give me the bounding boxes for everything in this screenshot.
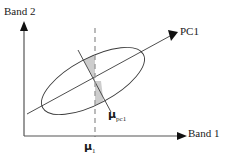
mu-pc1-subscript: pc1 <box>116 115 126 123</box>
pc1-mean-label: μpc1 <box>108 108 126 123</box>
band1-mean-label: μ1 <box>84 140 96 155</box>
shaded-region-upper <box>78 40 95 81</box>
data-distribution-ellipse <box>32 34 154 128</box>
x-axis-label: Band 1 <box>188 128 219 139</box>
mu-symbol: μ <box>84 140 92 153</box>
pc1-label: PC1 <box>180 26 199 37</box>
mu-subscript: 1 <box>92 147 96 155</box>
mu-pc1-symbol: μ <box>108 108 116 121</box>
band1-axis-arrowhead-icon <box>177 132 187 140</box>
band2-axis-arrowhead-icon <box>20 21 28 31</box>
pc1-arrowhead-icon <box>168 30 178 41</box>
y-axis-label: Band 2 <box>4 6 35 17</box>
figure-canvas: Band 2 Band 1 PC1 μ1 μpc1 <box>0 0 232 161</box>
